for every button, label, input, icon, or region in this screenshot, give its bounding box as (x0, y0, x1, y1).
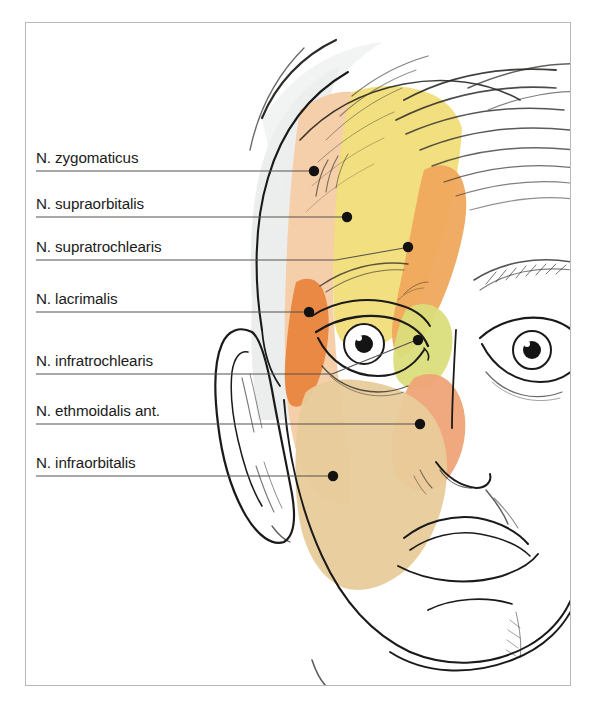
figure-page: N. zygomaticus N. supraorbitalis N. supr… (0, 0, 595, 710)
label-n-supraorbitalis: N. supraorbitalis (36, 196, 144, 211)
label-n-ethmoidalis-ant: N. ethmoidalis ant. (36, 403, 160, 418)
label-n-supratrochlearis: N. supratrochlearis (36, 239, 162, 254)
label-n-infraorbitalis: N. infraorbitalis (36, 455, 136, 470)
label-n-zygomaticus: N. zygomaticus (36, 150, 138, 165)
label-n-infratrochlearis: N. infratrochlearis (36, 353, 153, 368)
label-layer: N. zygomaticus N. supraorbitalis N. supr… (0, 0, 595, 710)
label-n-lacrimalis: N. lacrimalis (36, 291, 117, 306)
